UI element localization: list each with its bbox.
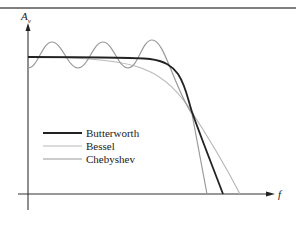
legend-item-butterworth: Butterworth [43, 127, 140, 139]
chart-canvas: Av f Butterworth Bessel Cheby [0, 0, 296, 225]
filter-response-chart: Av f Butterworth Bessel Cheby [0, 0, 296, 225]
x-axis: f [18, 188, 283, 200]
x-axis-arrow-icon [266, 192, 275, 197]
y-axis-label: Av [20, 10, 32, 25]
bessel-curve [28, 57, 240, 194]
legend-label-bessel: Bessel [86, 140, 115, 152]
legend-label-chebyshev: Chebyshev [86, 153, 135, 165]
legend-label-butterworth: Butterworth [86, 127, 140, 139]
x-axis-label: f [278, 188, 283, 200]
chebyshev-curve [28, 40, 207, 194]
y-axis: Av [20, 10, 32, 210]
legend-item-bessel: Bessel [43, 140, 115, 152]
legend-item-chebyshev: Chebyshev [43, 153, 135, 165]
legend: Butterworth Bessel Chebyshev [43, 127, 140, 165]
